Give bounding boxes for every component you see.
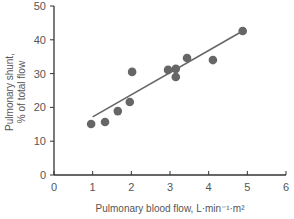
x-axis-label: Pulmonary blood flow, L·min⁻¹·m²: [96, 203, 246, 214]
y-tick-label: 50: [34, 0, 46, 12]
data-point: [125, 98, 134, 107]
data-point: [238, 27, 247, 36]
x-tick-label: 4: [206, 181, 212, 193]
y-tick-label: 30: [34, 68, 46, 80]
scatter-chart: 01020304050 0123456 Pulmonary shunt, % o…: [0, 0, 294, 219]
data-point: [172, 65, 181, 74]
x-tick-label: 6: [283, 181, 289, 193]
data-point: [87, 120, 96, 129]
chart-svg: 01020304050 0123456 Pulmonary shunt, % o…: [0, 0, 294, 219]
y-tick-label: 0: [40, 169, 46, 181]
y-tick-label: 10: [34, 135, 46, 147]
y-axis-ticks: 01020304050: [34, 0, 54, 181]
x-axis-ticks: 0123456: [51, 171, 289, 193]
y-tick-label: 40: [34, 34, 46, 46]
y-axis-label-line1: Pulmonary shunt,: [4, 53, 15, 131]
y-tick-label: 20: [34, 101, 46, 113]
x-tick-label: 2: [128, 181, 134, 193]
y-axis-label-line2: % of total flow: [16, 60, 27, 123]
data-point: [183, 54, 192, 63]
x-tick-label: 5: [244, 181, 250, 193]
data-point: [114, 107, 123, 116]
data-point: [209, 56, 218, 65]
data-point: [101, 118, 110, 127]
data-point: [164, 66, 173, 75]
x-tick-label: 3: [167, 181, 173, 193]
data-point: [172, 73, 181, 82]
axes: [54, 6, 286, 175]
x-tick-label: 0: [51, 181, 57, 193]
data-point: [128, 68, 137, 77]
x-tick-label: 1: [90, 181, 96, 193]
